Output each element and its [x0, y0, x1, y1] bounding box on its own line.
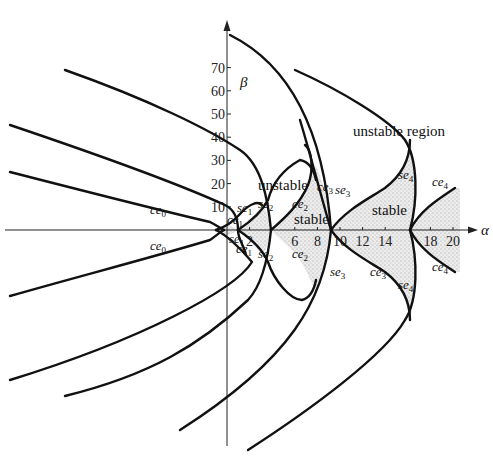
x-axis-arrow-icon — [468, 227, 478, 234]
curve-ce1-upper — [10, 125, 238, 230]
curve-ce0-lower — [10, 230, 224, 296]
curve-label-se1-upper: se1 — [237, 200, 252, 217]
curve-label-se2-lower: se2 — [258, 246, 273, 263]
y-tick-label: 70 — [211, 61, 225, 76]
curve-se1-lower — [10, 230, 252, 380]
curve-label-se3-upper: se3 — [335, 182, 351, 199]
x-tick-label: 14 — [378, 234, 392, 249]
x-tick-label: 12 — [356, 234, 370, 249]
x-axis-label: α — [481, 222, 490, 238]
x-tick-label: 8 — [314, 234, 321, 249]
y-tick-label: 50 — [211, 107, 225, 122]
curve-label-ce3-upper: ce3 — [317, 179, 334, 196]
x-tick-label: 20 — [446, 234, 460, 249]
stability-diagram: 268101214182010203040506070 β α unstable… — [0, 0, 493, 456]
curve-ce0-upper — [10, 172, 224, 230]
region-label-stable-2: stable — [372, 202, 407, 218]
y-axis-arrow-icon — [224, 20, 231, 31]
y-axis-label: β — [239, 74, 248, 90]
x-tick-label: 18 — [423, 234, 437, 249]
curve-label-ce0-upper: ce0 — [150, 202, 167, 219]
y-tick-label: 30 — [211, 153, 225, 168]
curve-label-ce4-upper: ce4 — [432, 174, 449, 191]
curve-label-se2-upper: se2 — [258, 196, 273, 213]
curve-label-se3-lower: se3 — [330, 264, 346, 281]
region-label-unstable-region: unstable region — [353, 123, 446, 139]
region-label-stable-1: stable — [294, 211, 329, 227]
region-label-unstable: unstable — [258, 177, 308, 193]
y-tick-label: 20 — [211, 177, 225, 192]
y-tick-label: 60 — [211, 84, 225, 99]
curve-label-ce0-lower: ce0 — [150, 238, 167, 255]
